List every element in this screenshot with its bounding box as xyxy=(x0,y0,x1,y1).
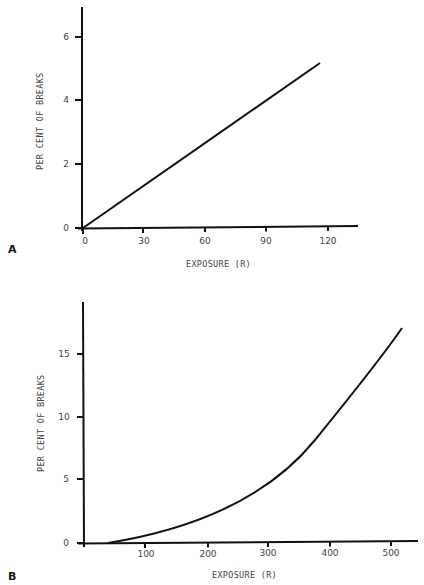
chart-a-y-ticks xyxy=(75,37,82,228)
svg-text:200: 200 xyxy=(199,549,216,559)
chart-a-x-axis-label: EXPOSURE (R) xyxy=(186,259,251,269)
svg-text:500: 500 xyxy=(382,548,399,558)
chart-b-y-ticks xyxy=(77,354,83,543)
svg-text:5: 5 xyxy=(63,474,69,484)
chart-a-x-tick-labels: 0 30 60 90 120 xyxy=(82,236,337,246)
svg-text:120: 120 xyxy=(319,236,336,246)
svg-text:100: 100 xyxy=(137,549,154,559)
panel-letter-b: B xyxy=(8,570,16,583)
svg-text:300: 300 xyxy=(259,548,276,558)
svg-text:10: 10 xyxy=(58,412,70,422)
svg-text:30: 30 xyxy=(138,236,150,246)
chart-a-y-axis-label: PER CENT OF BREAKS xyxy=(35,72,45,170)
chart-b-y-tick-labels: 0 5 10 15 xyxy=(58,349,70,548)
svg-text:0: 0 xyxy=(82,236,88,246)
svg-text:4: 4 xyxy=(63,95,69,105)
svg-text:60: 60 xyxy=(199,236,211,246)
svg-text:0: 0 xyxy=(63,223,69,233)
chart-b-x-tick-labels: 100 200 300 400 500 xyxy=(137,548,399,559)
chart-b-x-axis-label: EXPOSURE (R) xyxy=(212,570,277,580)
svg-text:15: 15 xyxy=(58,349,69,359)
chart-a-data-line xyxy=(83,63,320,228)
svg-text:0: 0 xyxy=(63,538,69,548)
chart-a: 0 2 4 6 0 30 60 90 120 EXPOSURE (R) PER … xyxy=(8,7,358,269)
chart-b-x-axis xyxy=(78,541,418,544)
chart-b-y-axis-label: PER CENT OF BREAKS xyxy=(36,374,46,472)
svg-text:400: 400 xyxy=(321,548,338,558)
chart-b-y-axis xyxy=(83,302,84,547)
svg-text:2: 2 xyxy=(63,159,69,169)
panel-letter-a: A xyxy=(8,243,17,256)
chart-a-x-axis xyxy=(78,226,358,229)
chart-b: 0 5 10 15 100 200 300 400 500 EXPOSURE (… xyxy=(8,302,418,583)
chart-a-y-tick-labels: 0 2 4 6 xyxy=(63,32,69,233)
chart-b-data-curve xyxy=(108,328,402,543)
figure: 0 2 4 6 0 30 60 90 120 EXPOSURE (R) PER … xyxy=(0,0,424,585)
svg-text:6: 6 xyxy=(63,32,69,42)
svg-text:90: 90 xyxy=(260,236,272,246)
